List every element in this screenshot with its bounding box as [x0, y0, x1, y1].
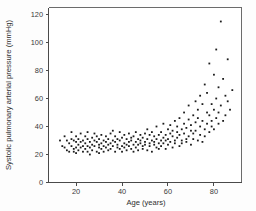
data-point	[206, 92, 208, 94]
data-point	[185, 127, 187, 129]
data-point	[114, 151, 116, 153]
data-point	[220, 21, 222, 23]
data-point	[119, 148, 121, 150]
data-point	[176, 137, 178, 139]
data-point	[84, 142, 86, 144]
data-point	[156, 147, 158, 149]
y-axis-title: Systolic pulmonary arterial pressure (mm…	[4, 19, 13, 170]
data-point	[222, 120, 224, 122]
data-point	[213, 74, 215, 76]
data-point	[215, 98, 217, 100]
data-point	[149, 145, 151, 147]
data-point	[103, 151, 105, 153]
plot-area-background	[48, 7, 241, 182]
data-point	[185, 141, 187, 143]
x-tick-label: 20	[72, 187, 80, 196]
data-point	[227, 100, 229, 102]
data-point	[167, 138, 169, 140]
data-point	[94, 133, 96, 135]
data-point	[107, 144, 109, 146]
data-point	[61, 145, 63, 147]
data-point	[75, 141, 77, 143]
data-point	[110, 133, 112, 135]
data-point	[158, 142, 160, 144]
data-point	[172, 147, 174, 149]
x-tick-label: 80	[210, 187, 218, 196]
data-point	[73, 148, 75, 150]
data-point	[174, 140, 176, 142]
data-point	[176, 126, 178, 128]
data-point	[231, 89, 233, 91]
data-point	[80, 147, 82, 149]
data-point	[64, 135, 66, 137]
data-point	[87, 138, 89, 140]
data-point	[98, 152, 100, 154]
data-point	[68, 151, 70, 153]
data-point	[144, 133, 146, 135]
x-tick-label: 60	[164, 187, 172, 196]
data-point	[77, 138, 79, 140]
data-point	[206, 112, 208, 114]
data-point	[149, 142, 151, 144]
data-point	[165, 134, 167, 136]
data-point	[137, 149, 139, 151]
data-point	[202, 120, 204, 122]
data-point	[66, 140, 68, 142]
data-point	[89, 141, 91, 143]
data-point	[192, 114, 194, 116]
data-point	[144, 144, 146, 146]
data-point	[215, 117, 217, 119]
data-point	[130, 148, 132, 150]
data-point	[197, 109, 199, 111]
data-point	[112, 145, 114, 147]
data-point	[181, 128, 183, 130]
data-point	[158, 148, 160, 150]
data-point	[183, 123, 185, 125]
data-point	[91, 144, 93, 146]
data-point	[77, 149, 79, 151]
data-point	[82, 145, 84, 147]
data-point	[94, 145, 96, 147]
data-point	[123, 142, 125, 144]
data-point	[195, 100, 197, 102]
data-point	[213, 109, 215, 111]
data-point	[153, 141, 155, 143]
data-point	[133, 151, 135, 153]
data-point	[176, 131, 178, 133]
data-point	[183, 133, 185, 135]
data-point	[91, 137, 93, 139]
data-point	[103, 145, 105, 147]
data-point	[208, 114, 210, 116]
data-point	[158, 134, 160, 136]
data-point	[156, 126, 158, 128]
data-point	[89, 154, 91, 156]
data-point	[156, 138, 158, 140]
data-point	[227, 58, 229, 60]
data-point	[82, 140, 84, 142]
data-point	[91, 149, 93, 151]
data-point	[181, 142, 183, 144]
data-point	[100, 148, 102, 150]
data-point	[107, 138, 109, 140]
data-point	[202, 103, 204, 105]
scatter-plot-figure: 020406080100120 20406080 Systolic pulmon…	[0, 0, 256, 211]
data-point	[151, 151, 153, 153]
data-point	[98, 147, 100, 149]
data-point	[96, 151, 98, 153]
data-point	[215, 49, 217, 51]
data-point	[87, 145, 89, 147]
data-point	[135, 147, 137, 149]
data-point	[151, 140, 153, 142]
data-point	[105, 141, 107, 143]
data-point	[165, 148, 167, 150]
data-point	[71, 138, 73, 140]
data-point	[153, 144, 155, 146]
data-point	[112, 130, 114, 132]
data-point	[197, 140, 199, 142]
data-point	[208, 63, 210, 65]
data-point	[218, 112, 220, 114]
data-point	[144, 141, 146, 143]
data-point	[59, 140, 61, 142]
data-point	[140, 140, 142, 142]
data-point	[183, 112, 185, 114]
